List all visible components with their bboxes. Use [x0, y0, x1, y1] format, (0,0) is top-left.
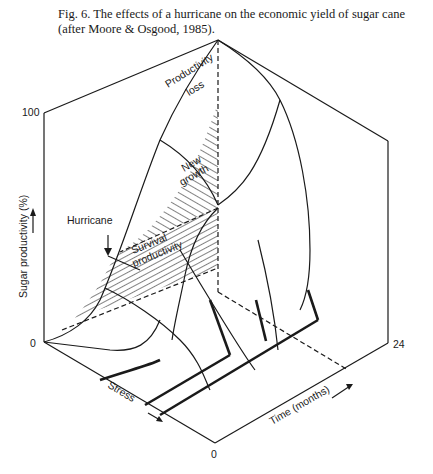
time-tick-24: 24 [393, 338, 405, 350]
time-arrow-icon [332, 384, 353, 398]
time-axis-label: Time (months) [267, 383, 331, 427]
y-tick-0: 0 [30, 337, 36, 349]
y-tick-100: 100 [22, 106, 40, 118]
hurricane-yield-diagram: 100 0 0 24 Sugar productivity (%) Stress… [0, 0, 433, 474]
hurricane-label: Hurricane [67, 214, 113, 226]
vertical-axis-arrow-icon [30, 208, 36, 233]
stress-axis-label: Stress [106, 378, 138, 404]
productivity-loss-label-2: loss [184, 78, 206, 98]
time-tick-0: 0 [211, 448, 217, 460]
y-axis-label: Sugar productivity (%) [17, 195, 29, 298]
